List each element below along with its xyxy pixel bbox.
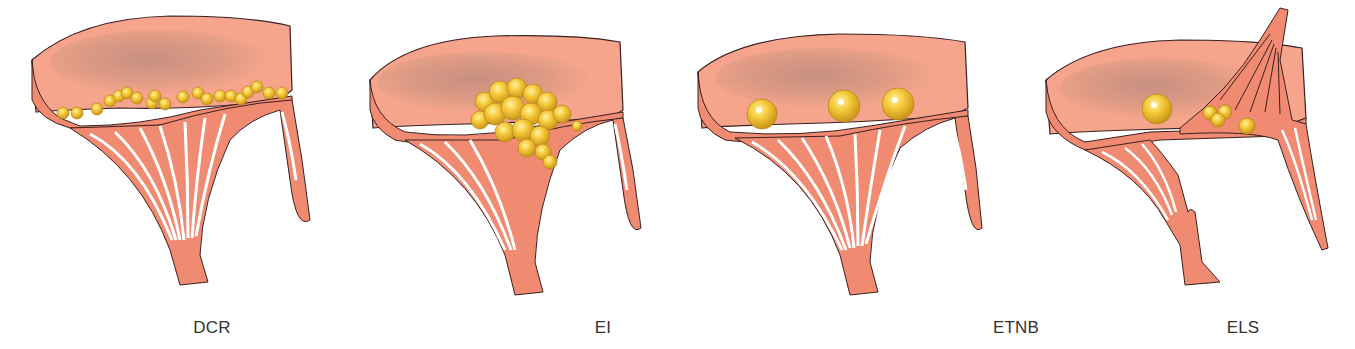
panel-label-els: ELS: [1227, 318, 1260, 338]
valve-illustration-ei: [365, 0, 695, 310]
panel-etnb: [690, 0, 1020, 349]
panel-label-dcr: DCR: [193, 318, 230, 338]
panel-label-etnb: ETNB: [993, 318, 1039, 338]
valve-illustration-etnb: [690, 0, 1020, 310]
panel-els: [1030, 0, 1355, 349]
valve-illustration-els: [1030, 0, 1355, 310]
valve-illustration-dcr: [20, 0, 350, 310]
panel-ei: [365, 0, 695, 349]
panel-label-ei: EI: [595, 318, 611, 338]
panel-dcr: [20, 0, 350, 349]
